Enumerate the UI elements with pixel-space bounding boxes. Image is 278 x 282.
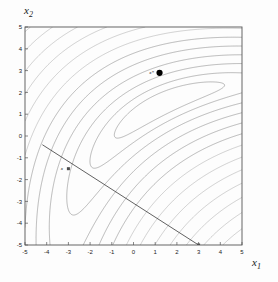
x-tick-label: -5 (22, 249, 28, 255)
y-tick-label: -5 (17, 242, 23, 248)
solution-point-marker (156, 70, 162, 76)
solution-point-label: x* (148, 70, 154, 75)
figure-background (0, 0, 278, 282)
contour-plot-figure: x*x -5-4-3-2-1012345-5-4-3-2-1012345 x2 … (0, 0, 278, 282)
x-tick-label: -4 (44, 249, 50, 255)
x-tick-label: -3 (66, 249, 72, 255)
y-tick-label: -1 (17, 155, 23, 161)
y-tick-label: -3 (17, 199, 23, 205)
y-tick-label: -2 (17, 177, 23, 183)
plot-svg: x*x -5-4-3-2-1012345-5-4-3-2-1012345 x2 … (0, 0, 278, 282)
x-tick-label: -2 (87, 249, 93, 255)
y-tick-label: -4 (17, 220, 23, 226)
x-tick-label: -1 (109, 249, 115, 255)
constraint-point-marker (67, 167, 70, 170)
